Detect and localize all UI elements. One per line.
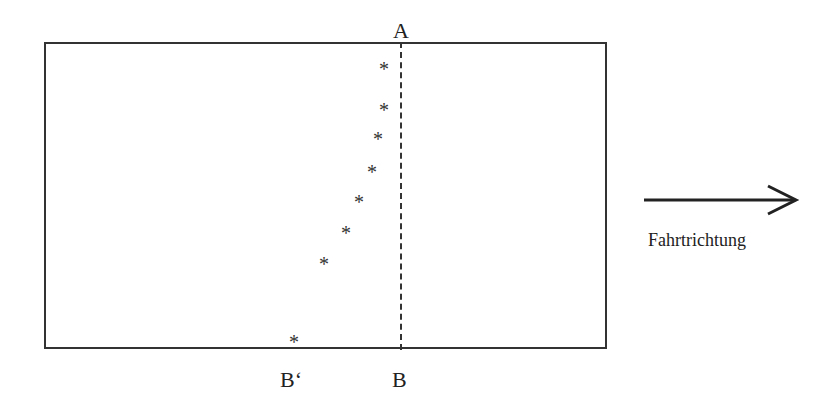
arrow-right-icon	[640, 180, 800, 220]
asterisk-marker: *	[379, 100, 389, 120]
asterisk-marker: *	[319, 254, 329, 274]
asterisk-marker: *	[341, 223, 351, 243]
label-a: A	[393, 20, 409, 42]
asterisk-marker: *	[289, 332, 299, 352]
label-b: B	[392, 369, 407, 391]
asterisk-marker: *	[354, 192, 364, 212]
asterisk-marker: *	[367, 162, 377, 182]
dashed-line-a-b	[400, 42, 402, 350]
asterisk-marker: *	[379, 59, 389, 79]
asterisk-marker: *	[373, 129, 383, 149]
rectangle-frame	[44, 42, 607, 349]
direction-caption: Fahrtrichtung	[648, 230, 746, 251]
label-b-prime: B‘	[280, 369, 302, 391]
